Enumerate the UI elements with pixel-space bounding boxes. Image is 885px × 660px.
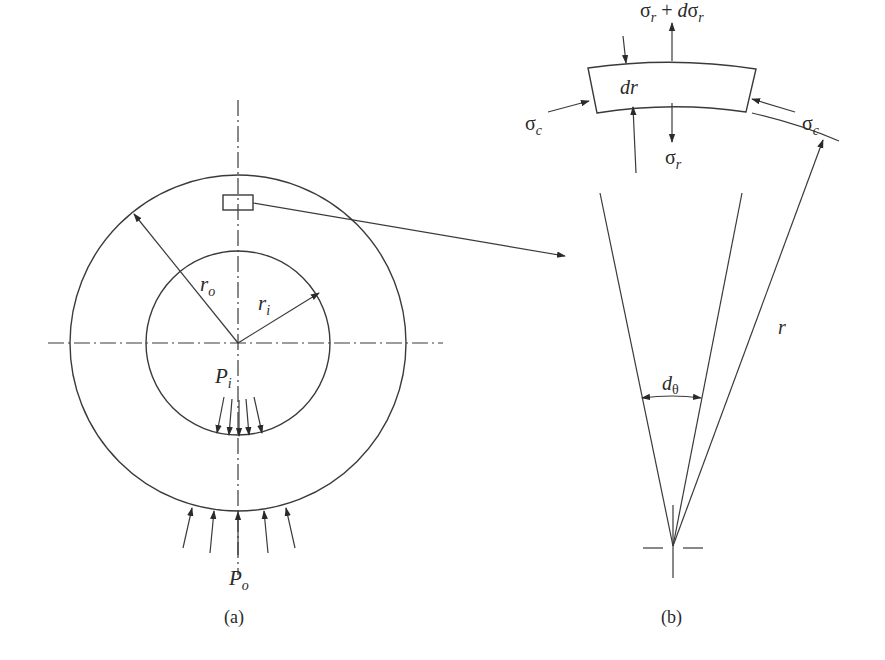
radius-r-arrow: [673, 140, 823, 546]
external-pressure-arrows: [183, 508, 295, 555]
radial-stress-inner-label: σr: [665, 146, 682, 172]
panel-a-caption: (a): [224, 607, 244, 628]
thick-cylinder-stress-diagram: ro ri Pi Po (a) dr: [0, 0, 885, 660]
radius-r-label: r: [778, 316, 786, 338]
bottom-left-load-arrow: [633, 107, 636, 173]
outer-radius-arrow: [134, 214, 238, 343]
angle-dtheta-label: dθ: [662, 372, 679, 397]
radial-stress-outer-label: σr + dσr: [640, 0, 704, 25]
internal-pressure-label: Pi: [214, 364, 232, 391]
inner-radius-arrow: [238, 293, 319, 343]
outer-arc-reference: [752, 113, 839, 141]
outer-radius-label: ro: [200, 272, 215, 299]
circumferential-stress-right-arrow: [752, 99, 795, 112]
panel-b-caption: (b): [661, 607, 682, 628]
wedge-right-radial-line: [673, 193, 742, 546]
circumferential-stress-left-arrow: [548, 101, 589, 112]
wedge-left-radial-line: [600, 193, 673, 546]
panel-b-element-detail: dr r dθ σr + dσr σr σc σc (b): [525, 0, 839, 628]
top-left-load-arrow: [623, 36, 626, 63]
element-thickness-label: dr: [620, 76, 638, 98]
circumferential-stress-right-label: σc: [802, 112, 820, 138]
leader-arrow-to-detail: [253, 203, 565, 256]
external-pressure-label: Po: [228, 566, 249, 593]
circumferential-stress-left-label: σc: [525, 112, 543, 138]
panel-a-cylinder-cross-section: ro ri Pi Po (a): [48, 100, 565, 628]
inner-radius-label: ri: [258, 291, 270, 318]
internal-pressure-arrows: [217, 397, 262, 436]
